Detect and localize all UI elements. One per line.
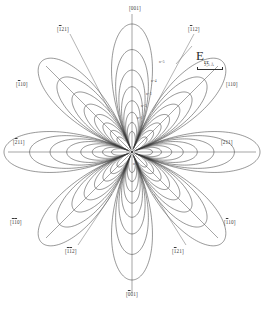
contour-tick-label-4: n=1 xyxy=(137,116,143,120)
leader-upper-right xyxy=(152,34,194,112)
direction-label-mid-right: [110] xyxy=(226,82,238,87)
direction-label-upper-right: [112] xyxy=(188,27,200,32)
direction-label-left: [211] xyxy=(13,140,25,145)
polar-rosette-figure: Err 2,5 Å [001][001][211][211][121][112]… xyxy=(0,0,264,309)
contour-tick-label-5: n=0 xyxy=(133,162,139,166)
direction-label-lower-left: [112] xyxy=(65,249,77,254)
direction-label-bottom: [001] xyxy=(126,292,138,297)
direction-label-mid-lower-right: [110] xyxy=(224,220,236,225)
direction-label-right: [211] xyxy=(221,140,233,145)
contour-tick-label-1: n=4 xyxy=(151,79,157,83)
direction-label-mid-lower-left: [110] xyxy=(10,220,22,225)
axis-lines xyxy=(8,14,256,293)
leader-e-symbol xyxy=(176,46,192,64)
direction-label-mid-left: [110] xyxy=(16,82,28,87)
modulus-symbol-letter: E xyxy=(196,48,204,63)
rosette-plot-svg xyxy=(0,0,264,309)
direction-label-upper-left: [121] xyxy=(57,27,69,32)
leader-lower-left xyxy=(78,194,112,245)
origin-marker xyxy=(131,151,133,153)
leader-upper-left xyxy=(70,34,110,112)
scale-bar: 2,5 Å xyxy=(196,62,223,70)
direction-label-top: [001] xyxy=(129,6,141,11)
leader-lower-right xyxy=(154,194,186,245)
direction-label-lower-right: [121] xyxy=(172,249,184,254)
contour-tick-label-0: n=5 xyxy=(159,60,165,64)
contour-tick-label-2: n=3 xyxy=(146,92,152,96)
contour-tick-label-3: n=2 xyxy=(141,104,147,108)
scale-bar-line xyxy=(197,67,223,70)
